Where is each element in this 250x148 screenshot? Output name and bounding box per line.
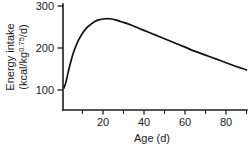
y-axis-title-exponent: 0.75 bbox=[17, 37, 26, 52]
y-tick-label-100: 100 bbox=[36, 84, 54, 96]
x-tick-label-40: 40 bbox=[138, 116, 150, 128]
y-tick-label-200: 200 bbox=[36, 42, 54, 54]
x-tick-label-80: 80 bbox=[220, 116, 232, 128]
y-tick-label-300: 300 bbox=[36, 0, 54, 12]
y-axis-title-units-suffix: /d) bbox=[17, 24, 29, 37]
x-tick-label-60: 60 bbox=[179, 116, 191, 128]
chart-figure: 300 200 100 20 40 60 80 Age (d) Energy i… bbox=[0, 0, 250, 148]
y-axis-title-line1: Energy intake bbox=[4, 23, 16, 90]
x-axis-title: Age (d) bbox=[134, 132, 170, 144]
y-axis-title-line2: (kcal/kg0.75/d) bbox=[17, 24, 30, 89]
y-axis-title-units-prefix: (kcal/kg bbox=[17, 52, 29, 90]
energy-intake-line-chart: 300 200 100 20 40 60 80 Age (d) Energy i… bbox=[0, 0, 250, 148]
x-tick-label-20: 20 bbox=[97, 116, 109, 128]
energy-intake-curve bbox=[64, 19, 246, 88]
